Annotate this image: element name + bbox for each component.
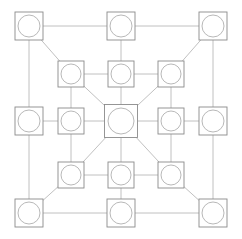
node-circle-glyph xyxy=(110,15,132,37)
graph-node[interactable] xyxy=(58,162,84,188)
node-circle-glyph xyxy=(202,202,224,224)
graph-svg xyxy=(0,0,242,239)
node-circle-glyph xyxy=(18,110,40,132)
graph-node[interactable] xyxy=(199,107,227,135)
node-circle-glyph xyxy=(161,64,181,84)
graph-node[interactable] xyxy=(15,12,43,40)
graph-node[interactable] xyxy=(108,162,134,188)
node-circle-glyph xyxy=(111,64,131,84)
graph-node[interactable] xyxy=(15,107,43,135)
node-circle-glyph xyxy=(110,202,132,224)
network-diagram-canvas xyxy=(0,0,242,239)
graph-node[interactable] xyxy=(199,199,227,227)
node-circle-glyph xyxy=(111,165,131,185)
graph-node[interactable] xyxy=(58,108,84,134)
graph-node[interactable] xyxy=(199,12,227,40)
graph-node[interactable] xyxy=(108,61,134,87)
graph-node[interactable] xyxy=(15,199,43,227)
node-circle-glyph xyxy=(202,110,224,132)
node-circle-glyph xyxy=(161,111,181,131)
node-circle-glyph xyxy=(202,15,224,37)
graph-node[interactable] xyxy=(158,108,184,134)
graph-node[interactable] xyxy=(58,61,84,87)
node-circle-glyph xyxy=(108,108,134,134)
graph-node[interactable] xyxy=(107,199,135,227)
node-circle-glyph xyxy=(61,64,81,84)
graph-node[interactable] xyxy=(107,12,135,40)
node-circle-glyph xyxy=(161,165,181,185)
graph-node[interactable] xyxy=(158,162,184,188)
node-circle-glyph xyxy=(18,15,40,37)
node-circle-glyph xyxy=(61,165,81,185)
graph-node[interactable] xyxy=(105,105,138,138)
node-circle-glyph xyxy=(61,111,81,131)
graph-node[interactable] xyxy=(158,61,184,87)
node-circle-glyph xyxy=(18,202,40,224)
